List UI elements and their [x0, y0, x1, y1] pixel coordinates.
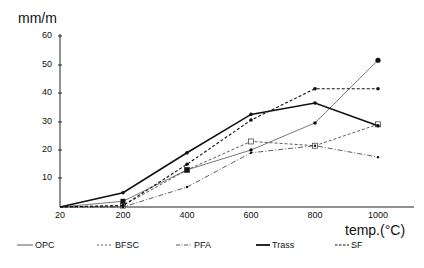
plot-area	[0, 0, 424, 268]
data-point-opc	[313, 121, 317, 125]
data-point-sf	[121, 204, 125, 208]
data-point-trass	[313, 101, 317, 105]
legend-item-sf: SF	[335, 240, 363, 250]
data-point-sf	[313, 87, 317, 91]
legend-item-bfsc: BFSC	[97, 240, 139, 250]
legend-label: OPC	[35, 240, 55, 250]
series-layer	[60, 58, 381, 209]
data-point-trass	[185, 151, 189, 155]
legend: OPC BFSC PFA Trass SF	[0, 240, 424, 256]
data-point-trass	[249, 113, 253, 117]
data-point-sf	[376, 87, 380, 91]
legend-item-pfa: PFA	[176, 240, 211, 250]
data-point-trass	[121, 191, 125, 195]
legend-label: SF	[351, 240, 363, 250]
data-point-opc	[375, 58, 380, 63]
data-point-opc	[249, 148, 253, 152]
legend-label: Trass	[272, 240, 294, 250]
data-point-trass	[376, 124, 380, 128]
data-point-square-marker	[121, 199, 126, 204]
data-point-pfa	[314, 145, 316, 147]
series-line-pfa	[60, 146, 378, 207]
data-point-pfa	[377, 156, 379, 158]
data-point-sf	[249, 118, 253, 122]
series-line-bfsc	[60, 124, 378, 207]
series-line-sf	[60, 89, 378, 207]
data-point-bfsc	[249, 139, 254, 144]
data-point-square-marker	[185, 167, 190, 172]
data-point-pfa	[250, 152, 252, 154]
legend-item-trass: Trass	[256, 240, 294, 250]
data-point-pfa	[186, 186, 188, 188]
data-point-sf	[185, 162, 189, 166]
series-line-trass	[60, 103, 378, 207]
legend-item-opc: OPC	[17, 240, 55, 250]
legend-label: BFSC	[115, 240, 139, 250]
legend-label: PFA	[194, 240, 211, 250]
